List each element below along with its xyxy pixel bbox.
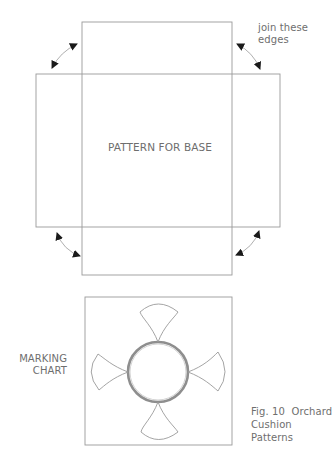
fan-petal-right	[188, 352, 225, 391]
fan-petal-top	[140, 304, 178, 342]
double-arrow-icon-bottom-right	[236, 231, 259, 255]
marking-chart-label-line-2: CHART	[17, 365, 67, 377]
double-arrow-icon-top-right	[237, 44, 260, 69]
double-arrow-icon-bottom-left	[57, 233, 80, 256]
caption-line-1: Fig. 10 Orchard	[251, 405, 332, 418]
marking-chart-frame	[85, 297, 232, 445]
marking-chart-label: MARKING CHART	[17, 353, 67, 377]
caption-line-2: Cushion	[251, 418, 332, 431]
center-ring	[128, 342, 188, 402]
center-ring-inner	[130, 344, 186, 400]
marking-chart	[85, 297, 232, 445]
double-arrow-icon-top-left	[52, 44, 77, 68]
fan-petals	[91, 304, 225, 440]
caption-line-3: Patterns	[251, 431, 332, 444]
annotation-line-2: edges	[258, 34, 308, 46]
fan-petal-bottom	[141, 402, 178, 440]
marking-chart-label-line-1: MARKING	[17, 353, 67, 365]
fan-petal-left	[91, 354, 128, 390]
join-edges-annotation: join these edges	[258, 22, 308, 46]
figure-caption: Fig. 10 Orchard Cushion Patterns	[251, 405, 332, 444]
base-pattern-label: PATTERN FOR BASE	[108, 141, 212, 153]
annotation-line-1: join these	[258, 22, 308, 34]
